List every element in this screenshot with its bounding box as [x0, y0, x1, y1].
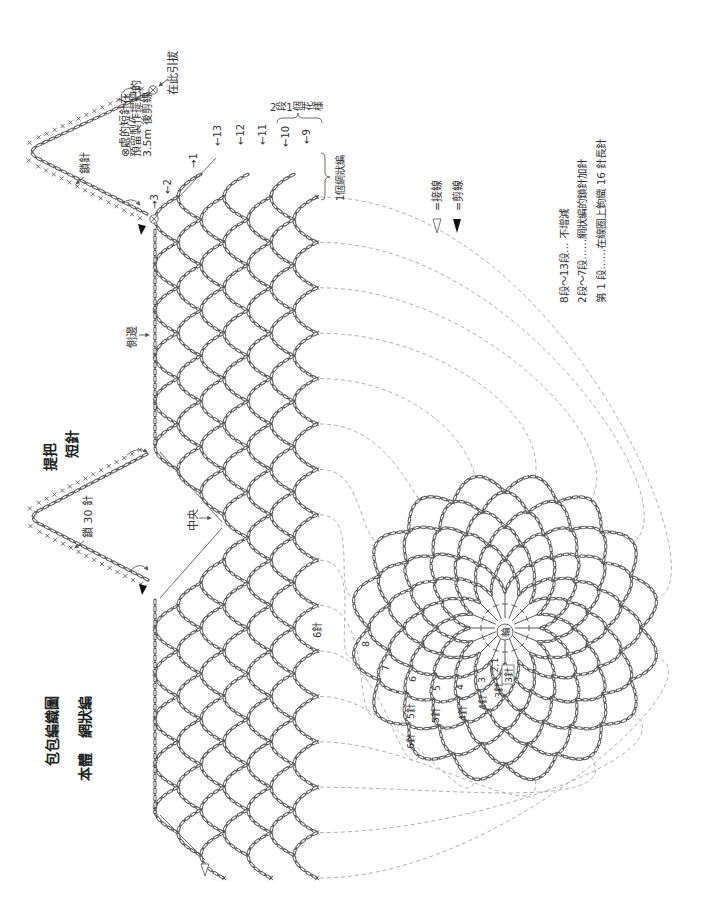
mesh-unit-brace — [321, 153, 330, 200]
chain-stitch-loop — [248, 787, 271, 832]
stitch-label-round-5a: 5針 — [430, 707, 441, 723]
chain-stitch-loop-inner — [458, 534, 488, 558]
cut-yarn-marker-icon — [138, 224, 146, 235]
note-rows-2-7: 2段～7段……網狀編的鎖針加針 — [576, 158, 588, 303]
chain-stitch-loop — [178, 583, 201, 628]
chain-stitch-loop — [178, 311, 201, 356]
chain-stitch-loop — [224, 265, 248, 310]
single-crochet-icon — [37, 501, 41, 505]
single-crochet-icon — [108, 102, 112, 106]
join-yarn-triangle-icon — [433, 219, 441, 233]
body-mesh-chart — [153, 158, 319, 880]
chain-stitch-loop-inner — [575, 644, 599, 674]
chain-stitch-loop — [248, 197, 271, 242]
chain-stitch-loop — [155, 696, 178, 741]
single-crochet-icon — [108, 566, 112, 570]
chain-stitch-loop — [201, 606, 224, 651]
chain-stitch-loop — [294, 833, 317, 878]
single-crochet-icon — [28, 141, 32, 145]
chain-stitch-loop — [271, 810, 294, 855]
chain-stitch-loop — [201, 696, 224, 741]
chain-stitch-loop-inner — [575, 581, 599, 611]
stitch-label-round-2: 3針 — [503, 667, 514, 683]
chain-stitch-loop — [294, 197, 317, 242]
single-crochet-icon — [138, 216, 142, 220]
single-crochet-icon — [52, 172, 56, 176]
chain-stitch-loop — [224, 356, 248, 401]
single-crochet-icon — [123, 574, 127, 578]
join-yarn-marker-icon — [201, 864, 209, 876]
chain-stitch-loop — [294, 560, 317, 605]
chain-stitch-loop — [271, 583, 294, 628]
chain-stitch-loop — [201, 242, 224, 287]
single-crochet-icon — [61, 124, 65, 128]
chain-stitch-loop — [598, 589, 621, 628]
chain-stitch-loop — [224, 492, 248, 537]
chain-stitch-loop — [294, 696, 317, 741]
single-crochet-icon — [122, 208, 126, 212]
chain-stitch-loop-inner — [505, 754, 557, 780]
chain-stitch-loop — [178, 674, 201, 719]
single-crochet-icon — [61, 542, 65, 546]
single-crochet-icon — [92, 109, 96, 113]
chain-stitch-loop — [271, 447, 294, 492]
chain-stitch-loop — [178, 401, 201, 446]
chain-stitch-loop — [155, 424, 178, 469]
single-crochet-icon — [84, 113, 88, 117]
row-marker-1: →1 — [188, 153, 199, 168]
chain-stitch-loop — [271, 174, 294, 219]
row-marker-2: ←2 — [162, 179, 173, 194]
joining-guide-line — [320, 714, 643, 833]
chain-stitch-loop — [155, 606, 178, 651]
chain-stitch-loop — [271, 265, 294, 310]
single-crochet-icon — [100, 105, 104, 109]
chain-stitch-loop — [201, 288, 224, 333]
chain-stitch-loop — [224, 674, 248, 719]
joining-guide-line — [320, 515, 354, 598]
single-crochet-icon — [122, 456, 126, 460]
joining-guide-line — [320, 424, 419, 500]
center-label: 中央 — [187, 509, 200, 531]
single-crochet-icon — [37, 135, 41, 139]
chart-title: 包包編織圖 — [44, 696, 60, 766]
chain-stitch-loop — [224, 628, 248, 673]
chain-stitch-loop — [201, 560, 224, 605]
single-crochet-icon — [67, 180, 71, 184]
single-crochet-icon — [116, 570, 120, 574]
chain-stitch-loop — [224, 810, 248, 855]
single-crochet-icon — [91, 472, 95, 476]
chain-stitch-loop — [294, 651, 317, 696]
legend-join-yarn: =接線 — [430, 180, 444, 211]
crochet-chart-page: 包包編織圖 本體 網狀編 提把 短針 鎖 30 針 鎖針 在此引拔 ⊗處的短針在… — [0, 0, 721, 915]
chain-stitch-loop — [248, 560, 271, 605]
chain-stitch-loop — [248, 515, 271, 560]
single-crochet-icon — [68, 485, 72, 489]
chain-stitch-loop — [155, 787, 178, 832]
single-crochet-icon — [45, 497, 49, 501]
chain-stitch-loop — [294, 787, 317, 832]
chain-stitch-loop — [248, 696, 271, 741]
single-crochet-icon — [77, 550, 81, 554]
single-crochet-icon — [99, 196, 103, 200]
row-marker-13: ←13 — [212, 125, 223, 146]
direction-arrow-icon — [131, 566, 148, 571]
chain-stitch-loop — [294, 424, 317, 469]
single-crochet-icon — [44, 168, 48, 172]
single-crochet-icon — [77, 117, 81, 121]
handle-stitch-label: 短針 — [64, 430, 80, 458]
single-crochet-icon — [69, 120, 73, 124]
chain-stitch-loop — [294, 288, 317, 333]
chain-stitch-loop — [294, 379, 317, 424]
single-crochet-icon — [53, 128, 57, 132]
chain-stitch-loop — [224, 583, 248, 628]
handle-chain-count: 鎖 30 針 — [81, 495, 95, 538]
stitch-label-round-5b: 5針 — [405, 703, 416, 719]
joining-guide-line — [320, 333, 536, 477]
chain-stitch-loop — [294, 742, 317, 787]
cut-note-line-3: 3.5m 後剪線 — [140, 92, 154, 157]
chain-stitch-loop — [534, 579, 554, 599]
chain-stitch-loop — [248, 833, 271, 878]
single-crochet-icon — [60, 176, 64, 180]
chain-stitch-loop — [224, 220, 248, 265]
chain-stitch-loop — [155, 288, 178, 333]
